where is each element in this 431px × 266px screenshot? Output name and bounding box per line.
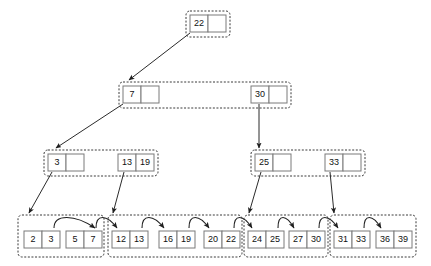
node-33[interactable]: 33	[325, 154, 361, 171]
leaf-16-19[interactable]: 1619	[159, 231, 195, 248]
leaf-27-30[interactable]: 2730	[289, 231, 325, 248]
tree-canvas: 2273031319253323571213161920222425273031…	[0, 0, 431, 266]
leaf-24-25[interactable]: 2425	[248, 231, 284, 248]
node-30[interactable]: 30	[251, 86, 287, 103]
b-plus-tree-diagram: 2273031319253323571213161920222425273031…	[0, 0, 431, 266]
node-cell-label: 2	[30, 234, 35, 244]
node-cell-label: 25	[259, 157, 269, 167]
leaf-5-7[interactable]: 57	[66, 231, 102, 248]
node-cell	[66, 154, 84, 171]
node-cell-label: 36	[380, 234, 390, 244]
chain-27-30-to-31-33	[319, 218, 338, 229]
nodes-layer: 2273031319253323571213161920222425273031…	[24, 15, 412, 248]
node-cell-label: 22	[226, 234, 236, 244]
leaf-12-13[interactable]: 1213	[112, 231, 148, 248]
node-cell-label: 27	[293, 234, 303, 244]
chain-20-22-to-24-25	[234, 218, 252, 229]
node-cell-label: 33	[329, 157, 339, 167]
chain-2-3-to-5-7	[54, 218, 95, 229]
node-cell-label: 33	[356, 234, 366, 244]
node-cell-label: 19	[140, 157, 150, 167]
node-cell-label: 25	[270, 234, 280, 244]
node-25[interactable]: 25	[255, 154, 291, 171]
node-cell-label: 20	[208, 234, 218, 244]
node-cell-label: 13	[122, 157, 132, 167]
node-cell-label: 3	[54, 157, 59, 167]
chain-16-19-to-20-22	[189, 218, 209, 229]
node-cell-label: 24	[252, 234, 262, 244]
child-pointers-layer	[29, 33, 334, 213]
pointer-7-to-3	[56, 104, 123, 148]
node-cell	[269, 86, 287, 103]
node-cell	[343, 154, 361, 171]
chain-5-7-to-12-13	[96, 218, 117, 229]
node-cell-label: 22	[194, 18, 204, 28]
node-cell-label: 7	[90, 234, 95, 244]
node-cell-label: 19	[181, 234, 191, 244]
node-cell-label: 30	[311, 234, 321, 244]
node-cell	[141, 86, 159, 103]
leaf-20-22[interactable]: 2022	[204, 231, 240, 248]
leaf-chain-layer	[54, 218, 381, 229]
chain-12-13-to-16-19	[142, 218, 164, 229]
node-cell-label: 13	[134, 234, 144, 244]
leaf-2-3[interactable]: 23	[24, 231, 60, 248]
pointer-25-to-leaf3	[249, 172, 261, 213]
root-node[interactable]: 22	[190, 15, 226, 32]
chain-24-25-to-27-30	[278, 218, 294, 229]
leaf-31-33[interactable]: 3133	[334, 231, 370, 248]
node-cell-label: 39	[398, 234, 408, 244]
node-cell-label: 31	[338, 234, 348, 244]
node-cell-label: 3	[48, 234, 53, 244]
node-3[interactable]: 3	[48, 154, 84, 171]
node-13-19[interactable]: 1319	[118, 154, 154, 171]
pointer-13-to-leaf2	[113, 172, 124, 213]
chain-31-33-to-36-39	[364, 218, 381, 229]
node-7[interactable]: 7	[123, 86, 159, 103]
node-cell-label: 16	[163, 234, 173, 244]
leaf-36-39[interactable]: 3639	[376, 231, 412, 248]
pointer-33-to-leaf4	[330, 172, 334, 213]
node-cell-label: 5	[72, 234, 77, 244]
node-cell	[273, 154, 291, 171]
node-cell	[208, 15, 226, 32]
node-cell-label: 12	[116, 234, 126, 244]
pointer-root-to-7	[129, 33, 190, 80]
node-cell-label: 7	[129, 89, 134, 99]
node-cell-label: 30	[255, 89, 265, 99]
pointer-3-to-leaf1	[29, 172, 52, 213]
